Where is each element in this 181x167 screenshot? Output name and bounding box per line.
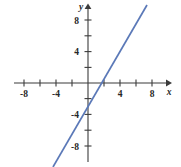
y-axis-label: y	[78, 2, 84, 12]
y-tick-label-pos4: 4	[74, 47, 79, 57]
y-axis-arrowhead	[85, 4, 92, 10]
x-tick-label-pos4: 4	[118, 89, 123, 99]
y-tick-label-neg8: -8	[71, 142, 79, 152]
x-tick-label-neg4: -4	[52, 89, 60, 99]
y-tick-label-neg4: -4	[71, 110, 79, 120]
x-axis-arrowhead	[166, 80, 172, 87]
coordinate-graph-figure: -8 -4 4 8 8 4 -4 -8 x y	[0, 0, 181, 167]
y-tick-label-pos8: 8	[74, 16, 79, 26]
x-tick-label-pos8: 8	[150, 89, 155, 99]
x-axis-label: x	[166, 87, 172, 97]
x-tick-label-neg8: -8	[20, 89, 28, 99]
graph-canvas: -8 -4 4 8 8 4 -4 -8 x y	[0, 0, 181, 167]
plotted-line	[53, 5, 147, 167]
